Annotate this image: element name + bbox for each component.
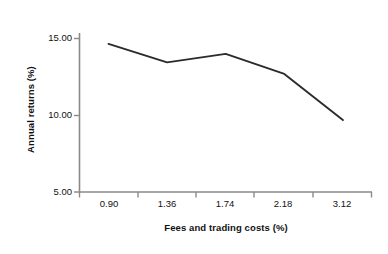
x-tick-label-0: 0.90 xyxy=(85,198,133,209)
x-tick-label-2: 1.74 xyxy=(201,198,249,209)
line-chart: Annual returns (%) 15.00 10.00 5.00 0.90… xyxy=(0,0,388,254)
x-tick-label-3: 2.18 xyxy=(259,198,307,209)
plot-area xyxy=(0,0,388,254)
x-tick-label-4: 3.12 xyxy=(318,198,366,209)
data-line-annual-returns xyxy=(109,44,343,120)
x-axis-title: Fees and trading costs (%) xyxy=(80,222,372,233)
x-tick-label-1: 1.36 xyxy=(143,198,191,209)
